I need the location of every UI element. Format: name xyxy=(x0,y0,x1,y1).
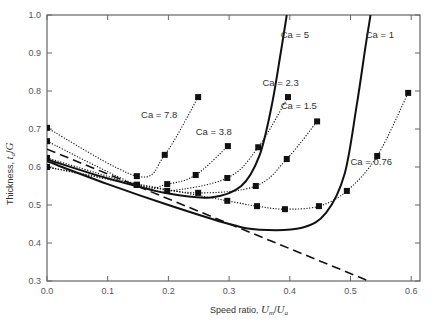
data-marker xyxy=(195,94,201,100)
data-marker xyxy=(224,198,230,204)
series-annotations: Ca = 7.8Ca = 3.8Ca = 2.3Ca = 1.5Ca = 0.7… xyxy=(141,29,394,167)
series-label: Ca = 1 xyxy=(366,29,394,40)
data-marker xyxy=(225,143,231,149)
y-tick-label: 1.0 xyxy=(28,10,41,20)
y-tick-label: 0.3 xyxy=(28,276,41,286)
series-line xyxy=(47,121,317,192)
thickness-chart: 0.00.10.20.30.40.50.60.30.40.50.60.70.80… xyxy=(0,0,446,322)
x-axis-label: Speed ratio, Um/Ua xyxy=(210,303,289,317)
series-line xyxy=(47,141,228,188)
y-tick-label: 0.8 xyxy=(28,86,41,96)
series-ca-3-8 xyxy=(44,138,231,188)
data-marker xyxy=(253,183,259,189)
series-label: Ca = 2.3 xyxy=(262,77,298,88)
series-label: Ca = 1.5 xyxy=(281,100,317,111)
data-marker xyxy=(44,164,50,170)
y-tick-label: 0.9 xyxy=(28,48,41,58)
series-label: Ca = 5 xyxy=(281,29,309,40)
data-marker xyxy=(224,175,230,181)
data-marker xyxy=(193,172,199,178)
data-marker xyxy=(44,138,50,144)
series-layer xyxy=(44,15,411,281)
x-tick-label: 0.2 xyxy=(162,286,175,296)
y-tick-label: 0.4 xyxy=(28,238,41,248)
y-tick-label: 0.6 xyxy=(28,162,41,172)
data-marker xyxy=(134,173,140,179)
x-tick-label: 0.6 xyxy=(405,286,418,296)
y-tick-label: 0.7 xyxy=(28,124,41,134)
series-label: Ca = 7.8 xyxy=(141,109,177,120)
data-marker xyxy=(316,203,322,209)
data-marker xyxy=(405,90,411,96)
data-marker xyxy=(254,203,260,209)
data-marker xyxy=(284,156,290,162)
series-label: Ca = 0.76 xyxy=(351,156,392,167)
data-marker xyxy=(285,94,291,100)
data-marker xyxy=(255,144,261,150)
series-line xyxy=(47,15,287,198)
x-tick-label: 0.0 xyxy=(41,286,54,296)
x-tick-label: 0.3 xyxy=(223,286,236,296)
x-tick-label: 0.1 xyxy=(101,286,114,296)
data-marker xyxy=(344,188,350,194)
data-marker xyxy=(164,181,170,187)
series-label: Ca = 3.8 xyxy=(196,126,232,137)
axis-ticks: 0.00.10.20.30.40.50.60.30.40.50.60.70.80… xyxy=(28,10,420,296)
series-ca-5 xyxy=(47,15,287,198)
data-marker xyxy=(282,206,288,212)
data-marker xyxy=(314,118,320,124)
series-line xyxy=(47,149,369,281)
y-axis-label: Thickness, ta/G xyxy=(3,142,17,205)
y-tick-label: 0.5 xyxy=(28,200,41,210)
x-tick-label: 0.4 xyxy=(284,286,297,296)
x-tick-label: 0.5 xyxy=(344,286,357,296)
series-ca-1-5 xyxy=(44,118,320,195)
data-marker xyxy=(162,152,168,158)
series-limit xyxy=(47,149,369,281)
data-marker xyxy=(44,125,50,131)
